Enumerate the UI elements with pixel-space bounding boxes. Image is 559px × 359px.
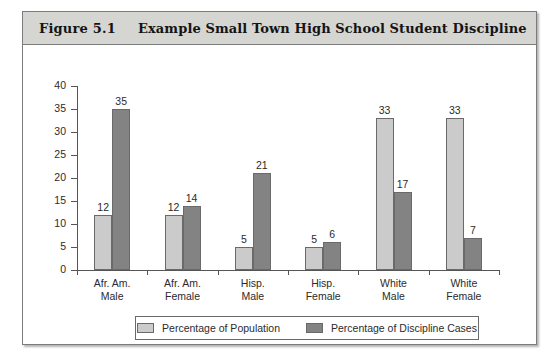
y-axis-tick-label: 30 (54, 125, 66, 137)
bar-group: 1214 (165, 86, 201, 270)
x-axis-tick (77, 270, 78, 275)
y-axis-tick-label: 0 (60, 263, 66, 275)
bar-series-layer: 12351214521563317337 (77, 86, 499, 270)
bar-value-label: 12 (97, 201, 109, 213)
bar[interactable]: 33 (446, 118, 464, 270)
bar[interactable]: 33 (376, 118, 394, 270)
bar-value-label: 21 (256, 159, 268, 171)
x-axis-tick (147, 270, 148, 275)
y-axis-tick-label: 35 (54, 102, 66, 114)
x-axis-category-label-line: Female (419, 290, 509, 303)
bar-value-label: 12 (168, 201, 180, 213)
figure-title-bar: Figure 5.1 Example Small Town High Schoo… (23, 12, 536, 45)
figure-container: Figure 5.1 Example Small Town High Schoo… (22, 11, 537, 345)
x-axis-tick (288, 270, 289, 275)
bar-value-label: 5 (241, 233, 247, 245)
bar[interactable]: 5 (305, 247, 323, 270)
legend-label: Percentage of Discipline Cases (331, 322, 477, 334)
bar-group: 521 (235, 86, 271, 270)
x-axis-category-label-line: White (419, 277, 509, 290)
bar[interactable]: 14 (183, 206, 201, 270)
bar-value-label: 7 (470, 224, 476, 236)
bar-group: 337 (446, 86, 482, 270)
bar[interactable]: 6 (323, 242, 341, 270)
bar-value-label: 6 (329, 228, 335, 240)
legend-label: Percentage of Population (162, 322, 280, 334)
bar-group: 1235 (94, 86, 130, 270)
chart-legend: Percentage of PopulationPercentage of Di… (135, 316, 479, 340)
y-axis-tick-label: 25 (54, 148, 66, 160)
bar-group: 56 (305, 86, 341, 270)
bar[interactable]: 21 (253, 173, 271, 270)
y-axis-tick-label: 40 (54, 79, 66, 91)
x-axis-tick (499, 270, 500, 275)
y-axis-tick-label: 10 (54, 217, 66, 229)
bar-value-label: 33 (449, 104, 461, 116)
bar[interactable]: 5 (235, 247, 253, 270)
bar-value-label: 5 (311, 233, 317, 245)
bar[interactable]: 12 (165, 215, 183, 270)
x-axis-category-label: WhiteFemale (419, 277, 509, 302)
bar[interactable]: 35 (112, 109, 130, 270)
legend-entry[interactable]: Percentage of Discipline Cases (306, 322, 477, 334)
bar-group: 3317 (376, 86, 412, 270)
x-axis-tick (429, 270, 430, 275)
legend-swatch (137, 323, 154, 333)
x-axis-tick (358, 270, 359, 275)
bar-value-label: 14 (186, 192, 198, 204)
figure-number-label: Figure 5.1 (39, 21, 116, 36)
y-axis-tick-label: 20 (54, 171, 66, 183)
y-axis-tick-label: 15 (54, 194, 66, 206)
legend-swatch (306, 323, 323, 333)
figure-title-label: Example Small Town High School Student D… (138, 21, 527, 36)
bar[interactable]: 17 (394, 192, 412, 270)
x-axis-tick (218, 270, 219, 275)
bar[interactable]: 7 (464, 238, 482, 270)
y-axis-tick-label: 5 (60, 240, 66, 252)
bar-value-label: 17 (397, 178, 409, 190)
bar-value-label: 35 (115, 95, 127, 107)
chart-plot-area: 0510152025303540 12351214521563317337 Af… (23, 45, 536, 346)
legend-entry[interactable]: Percentage of Population (137, 322, 280, 334)
bar-value-label: 33 (379, 104, 391, 116)
bar[interactable]: 12 (94, 215, 112, 270)
